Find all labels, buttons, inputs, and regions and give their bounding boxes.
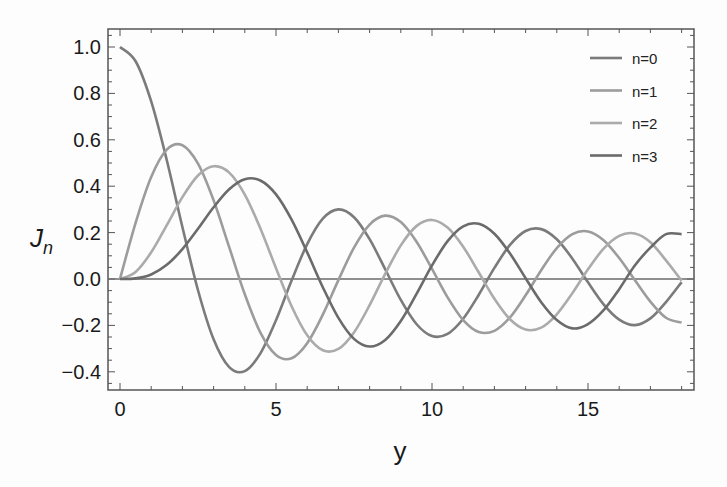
x-tick-label: 0 [114,398,125,420]
x-tick-label: 15 [577,398,599,420]
y-tick-label: 0.0 [73,268,101,290]
bessel-function-chart: 051015 −0.4−0.20.00.20.40.60.81.0 n=0n=1… [0,0,727,487]
axis-ticks [108,29,694,390]
series-line-n-0 [120,47,682,372]
y-axis-title-subscript: n [43,238,53,258]
x-tick-label: 5 [270,398,281,420]
legend-label: n=1 [632,83,657,100]
y-tick-label: 1.0 [73,36,101,58]
y-axis-title-main: J [29,223,44,253]
series-line-n-3 [120,178,682,346]
legend-label: n=3 [632,148,657,165]
y-tick-label: −0.4 [62,361,101,383]
y-tick-label: 0.8 [73,82,101,104]
legend-label: n=2 [632,115,657,132]
legend-label: n=0 [632,50,657,67]
plot-frame [108,29,694,390]
y-tick-label: 0.6 [73,129,101,151]
x-axis-title: y [394,436,407,466]
y-tick-label: −0.2 [62,314,101,336]
x-tick-labels: 051015 [114,398,599,420]
y-axis-title: Jn [29,223,53,258]
x-tick-label: 10 [421,398,443,420]
series-line-n-1 [120,144,682,359]
legend: n=0n=1n=2n=3 [590,50,657,165]
plot-border [108,29,694,390]
y-tick-label: 0.4 [73,175,101,197]
y-tick-label: 0.2 [73,222,101,244]
y-tick-labels: −0.4−0.20.00.20.40.60.81.0 [62,36,101,383]
series-line-n-2 [120,166,682,352]
data-series [120,47,682,372]
